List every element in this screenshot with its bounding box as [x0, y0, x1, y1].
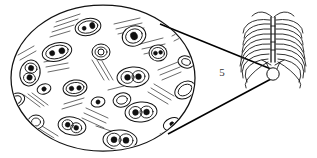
- anatomy-figure: 5: [0, 0, 317, 158]
- figure-canvas: 5: [0, 0, 317, 158]
- cell: [92, 44, 110, 60]
- sample-site-marker: [267, 68, 279, 80]
- callout-number-label: 5: [219, 66, 225, 78]
